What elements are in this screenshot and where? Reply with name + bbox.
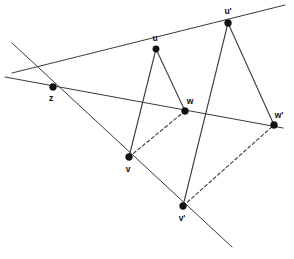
ray-z-u-uprime (12, 5, 285, 73)
triangle-side-u-w (156, 49, 185, 111)
triangle-side-u-v (129, 49, 156, 157)
vertex-label-wP: w' (274, 110, 284, 120)
ray-z-v-vprime (12, 43, 232, 247)
vertex-point-uP (225, 20, 232, 27)
triangle-side-uprime-wprime (228, 23, 274, 125)
triangle-side-v-w (129, 111, 185, 157)
vertices-group (50, 20, 278, 210)
vertex-label-vP: v' (179, 213, 186, 223)
ray-z-w-wprime (5, 77, 283, 128)
perspective-lines-group (5, 5, 285, 247)
vertex-point-u (153, 46, 159, 52)
vertex-label-z: z (49, 93, 53, 103)
triangle-edges-group (129, 23, 274, 206)
vertex-point-z (50, 84, 57, 91)
vertex-labels-group: zuu'ww'vv' (49, 6, 283, 223)
diagram-svg: zuu'ww'vv' (0, 0, 294, 259)
vertex-point-vP (180, 203, 187, 210)
vertex-point-v (126, 154, 133, 161)
triangle-side-vprime-wprime (183, 125, 274, 206)
vertex-label-u: u (152, 33, 157, 43)
vertex-label-v: v (126, 164, 131, 174)
vertex-point-w (182, 108, 189, 115)
triangle-side-uprime-vprime (183, 23, 228, 206)
vertex-label-w: w (186, 96, 194, 106)
geometry-diagram-canvas: zuu'ww'vv' (0, 0, 294, 259)
vertex-point-wP (271, 122, 278, 129)
vertex-label-uP: u' (224, 6, 231, 16)
